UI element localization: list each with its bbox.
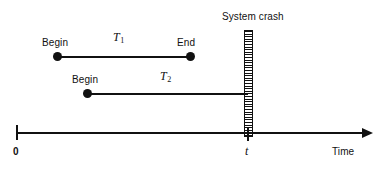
- axis-time-label: Time: [332, 146, 354, 157]
- t1-begin-dot: [53, 52, 62, 61]
- t2-name-label: T2: [160, 70, 171, 84]
- t1-end-dot: [186, 52, 195, 61]
- t2-name-base: T: [160, 69, 167, 83]
- system-crash-label: System crash: [222, 11, 284, 22]
- t1-end-label: End: [177, 37, 195, 48]
- t1-name-label: T1: [113, 31, 124, 45]
- timeline-figure: System crash Begin T1 End Begin T2 0 t T…: [0, 0, 381, 170]
- t1-name-base: T: [113, 30, 120, 44]
- axis-arrowhead-icon: [362, 128, 373, 138]
- axis-origin-label: 0: [13, 146, 19, 157]
- axis-crash-time-label: t: [245, 145, 248, 157]
- t2-span-line: [88, 93, 248, 95]
- t2-begin-dot: [83, 89, 92, 98]
- t2-begin-label: Begin: [72, 74, 98, 85]
- t1-begin-label: Begin: [42, 37, 68, 48]
- t2-name-subscript: 2: [167, 75, 171, 84]
- system-crash-bar: [244, 30, 253, 137]
- axis-crash-tick: [247, 128, 249, 141]
- t1-name-subscript: 1: [120, 36, 124, 45]
- time-axis-line: [16, 132, 365, 134]
- axis-origin-tick: [16, 125, 18, 140]
- t1-span-line: [58, 56, 191, 58]
